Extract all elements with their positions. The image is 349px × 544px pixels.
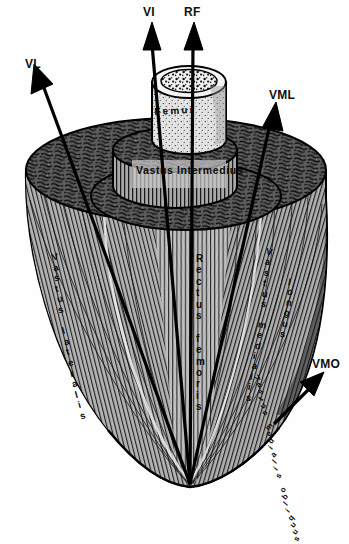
label-glyph: s [245,392,252,403]
label-glyph: r [196,379,200,389]
label-glyph: s [196,402,202,412]
label-vastus-intermedius-line1: Vastus [136,164,173,176]
label-femur: Femur [154,105,196,118]
pointer-label-rf: RF [184,6,201,18]
label-vastus-intermedius: Vastus Intermedius [136,165,243,176]
label-glyph: e [196,265,202,275]
label-glyph: s [292,535,301,544]
label-glyph: f [196,334,199,344]
label-glyph: e [196,345,202,355]
label-glyph: u [196,300,202,310]
label-vastus-intermedius-line2: Intermedius [177,164,243,176]
label-glyph: i [196,391,199,401]
pointer-label-vi: VI [143,6,155,18]
label-glyph: c [196,277,202,287]
label-glyph: R [196,254,203,264]
pointer-label-vl: VL [25,58,41,70]
label-glyph: o [196,368,202,378]
pointer-label-vmo: VMO [312,358,340,370]
pointer-label-vml: VML [269,89,295,101]
label-glyph: s [196,311,202,321]
label-glyph: t [196,288,199,298]
label-glyph [196,322,199,332]
label-glyph: m [196,357,205,367]
